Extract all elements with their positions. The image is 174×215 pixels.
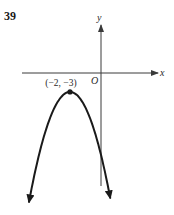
vertex-label: (−2, −3) [45, 78, 76, 89]
vertex-point [67, 89, 72, 94]
y-axis-label: y [96, 12, 102, 23]
parabola-curve [29, 92, 110, 203]
origin-label: O [91, 75, 98, 86]
x-axis-label: x [159, 67, 165, 78]
coordinate-plane: x y O (−2, −3) [0, 0, 174, 215]
